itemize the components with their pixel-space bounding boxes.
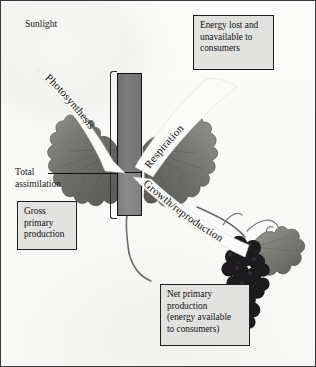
total-assimilation-label: Total assimilation: [15, 167, 61, 191]
energy-lost-line-3: consumers: [200, 43, 268, 55]
energy-lost-line-1: Energy lost and: [200, 20, 268, 32]
energy-lost-line-2: unavailable to: [200, 32, 268, 44]
net-primary-line-4: to consumers): [167, 324, 244, 336]
gross-primary-line-3: production: [24, 229, 71, 241]
photosynthesis-label: Photosynthesis: [43, 71, 98, 131]
net-primary-line-3: (energy available: [167, 312, 244, 324]
energy-lost-box: Energy lost and unavailable to consumers: [193, 15, 274, 70]
growth-label: Growth/reproduction: [142, 177, 226, 244]
total-assimilation-line-2: assimilation: [15, 179, 61, 191]
net-primary-production-box: Net primary production (energy available…: [160, 284, 250, 346]
gross-primary-line-1: Gross: [24, 206, 71, 218]
total-assimilation-line-1: Total: [15, 167, 34, 177]
net-primary-line-2: production: [167, 301, 244, 313]
figure-canvas: Photosynthesis Respiration Growth/reprod…: [0, 0, 316, 367]
net-primary-line-1: Net primary: [167, 289, 244, 301]
gross-primary-line-2: primary: [24, 218, 71, 230]
sunlight-label: Sunlight: [25, 19, 57, 31]
gross-primary-production-box: Gross primary production: [17, 201, 77, 250]
